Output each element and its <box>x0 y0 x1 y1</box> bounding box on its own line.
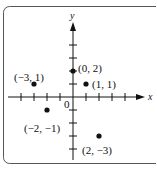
x-axis-arrow-icon <box>136 94 145 100</box>
coordinate-plane: (−3, 1)(0, 2)(1, 1)(−2, −1)(2, −3) x y 0 <box>0 0 156 169</box>
data-point <box>44 107 49 112</box>
data-point <box>70 68 75 73</box>
data-point <box>83 81 88 86</box>
point-label: (−2, −1) <box>24 122 61 135</box>
frame <box>4 7 157 164</box>
axes <box>8 22 145 160</box>
y-axis-label: y <box>69 10 75 21</box>
y-axis-arrow-icon <box>70 22 76 31</box>
point-label: (1, 1) <box>92 78 116 91</box>
x-axis-label: x <box>147 91 153 102</box>
point-label: (−3, 1) <box>14 71 44 84</box>
data-point <box>96 133 101 138</box>
point-label: (0, 2) <box>78 62 102 75</box>
origin-label: 0 <box>64 98 70 110</box>
point-label: (2, −3) <box>82 144 112 157</box>
